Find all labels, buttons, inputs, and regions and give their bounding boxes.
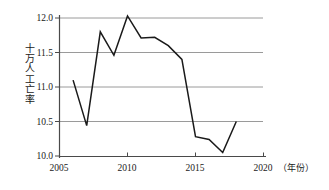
xtick-label-2015: 2015 [186, 163, 205, 173]
ytick-label-12-0: 12.0 [36, 13, 53, 23]
xtick-label-2005: 2005 [50, 163, 69, 173]
ytick-label-11-0: 11.0 [37, 82, 54, 92]
xtick-label-2010: 2010 [118, 163, 137, 173]
chart-canvas: 12.0 11.5 11.0 10.5 10.0 2005 2010 2015 … [0, 0, 329, 190]
y-axis-label: 十 万 人 工 亡 率 [22, 44, 37, 105]
ytick-label-10-0: 10.0 [36, 151, 53, 161]
chart-background [0, 0, 329, 190]
ytick-label-10-5: 10.5 [36, 117, 53, 127]
xtick-label-2020: 2020 [254, 163, 273, 173]
y-axis-label-char-5: 率 [25, 95, 35, 105]
line-chart: 12.0 11.5 11.0 10.5 10.0 2005 2010 2015 … [0, 0, 329, 190]
ytick-label-11-5: 11.5 [37, 48, 54, 58]
x-axis-unit-label: （年份） [278, 162, 314, 173]
